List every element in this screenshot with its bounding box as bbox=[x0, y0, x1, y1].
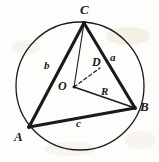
label-vertex-a: A bbox=[14, 130, 23, 143]
side-c-AB-line bbox=[29, 108, 135, 127]
figure-canvas bbox=[0, 0, 159, 162]
label-vertex-b: B bbox=[140, 100, 149, 113]
label-point-d: D bbox=[92, 56, 101, 68]
vertex-B-dot bbox=[133, 106, 137, 110]
label-side-b: b bbox=[44, 60, 50, 71]
label-radius-r: R bbox=[101, 86, 108, 97]
label-center-o: O bbox=[58, 80, 67, 92]
segment-OD-dashed-line bbox=[74, 68, 100, 87]
label-side-c: c bbox=[76, 118, 81, 129]
geometry-figure: A B C O D a b c R bbox=[0, 0, 159, 162]
circumcircle bbox=[16, 22, 144, 150]
vertex-C-dot bbox=[82, 21, 86, 25]
center-O-dot bbox=[73, 86, 76, 89]
label-side-a: a bbox=[110, 52, 116, 63]
label-vertex-c: C bbox=[80, 3, 89, 16]
scan-smudges bbox=[12, 27, 156, 156]
vertex-A-dot bbox=[27, 125, 31, 129]
